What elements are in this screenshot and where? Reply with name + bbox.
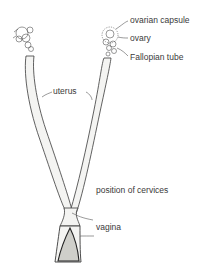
label-fallopian-tube: Fallopian tube — [130, 53, 183, 62]
cervix-junction — [60, 208, 80, 226]
label-uterus: uterus — [53, 87, 77, 96]
label-vagina: vagina — [96, 223, 121, 232]
right-ovary-drawing — [102, 27, 118, 56]
left-ovary-drawing — [13, 27, 34, 52]
diagram: ovarian capsule ovary Fallopian tube ute… — [0, 0, 203, 273]
left-uterine-horn — [25, 56, 72, 212]
reproductive-tract-drawing — [0, 0, 203, 273]
label-ovary: ovary — [130, 34, 151, 43]
label-position-of-cervices: position of cervices — [96, 186, 168, 195]
label-ovarian-capsule: ovarian capsule — [130, 16, 190, 25]
